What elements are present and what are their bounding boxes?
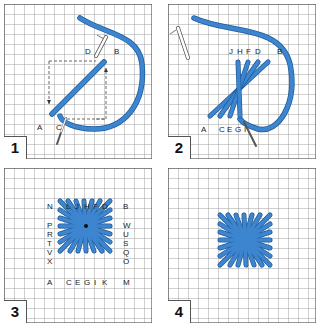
panel-2: J H F D B A C E G I 2 [168,4,316,159]
label-d: D [85,48,91,56]
panel-1: D B A C 1 [4,4,152,159]
panel-3: N L J H F D B P R T V X W U S Q O A C E … [4,168,152,323]
label-a: A [47,279,52,287]
label-x: X [47,258,52,266]
label-j: J [75,203,79,211]
label-b: B [277,48,282,56]
label-t: T [47,240,52,248]
label-m: M [123,279,130,287]
label-h: H [237,48,243,56]
label-c: C [66,279,72,287]
step-number: 3 [4,300,27,323]
label-b: B [114,48,119,56]
label-a: A [37,124,42,132]
label-k: K [102,279,107,287]
label-g: G [235,126,241,134]
label-l: L [66,203,70,211]
label-h: H [84,203,90,211]
label-g: G [84,279,90,287]
label-d: D [255,48,261,56]
label-c: C [219,126,225,134]
step-number: 1 [4,136,27,159]
label-o: O [123,258,129,266]
label-a: A [201,126,206,134]
label-s: S [123,240,128,248]
label-p: P [47,222,52,230]
step-number: 2 [168,136,191,159]
label-i: I [244,126,246,134]
label-e: E [75,279,80,287]
label-d: D [102,203,108,211]
label-n: N [47,203,53,211]
label-f: F [93,203,98,211]
label-w: W [123,222,131,230]
label-j: J [229,48,233,56]
label-q: Q [123,249,129,257]
label-b: B [123,203,128,211]
label-f: F [246,48,251,56]
label-r: R [47,231,53,239]
panel-4: 4 [168,168,316,323]
step-number: 4 [168,300,191,323]
label-v: V [47,249,52,257]
label-u: U [123,231,129,239]
label-i: I [94,279,96,287]
label-e: E [227,126,232,134]
label-c: C [56,124,62,132]
